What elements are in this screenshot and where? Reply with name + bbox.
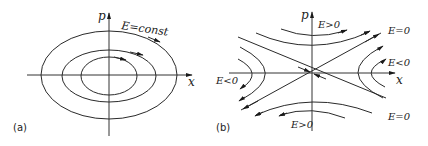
energy-negative-right-label: E<0 <box>387 57 411 68</box>
arrow-icon <box>361 31 370 35</box>
phase-portrait-figure: p x E=const (a) <box>0 0 428 146</box>
p-label: p <box>301 8 309 22</box>
energy-const-label: E=const <box>120 19 170 39</box>
panel-a-label: (a) <box>13 122 27 133</box>
arrow-icon <box>243 101 258 109</box>
panel-b-label: (b) <box>216 122 230 133</box>
trajectory-bottom-outer <box>256 102 372 115</box>
energy-zero-top-label: E=0 <box>387 25 411 36</box>
panel-a: p x E=const (a) <box>13 9 195 136</box>
energy-positive-bottom-label: E>0 <box>290 119 314 130</box>
arrow-icon <box>239 97 245 101</box>
arrow-icon <box>298 67 310 72</box>
panel-b: p x E>0 E=0 E<0 E<0 E=0 E>0 (b) <box>215 8 411 133</box>
energy-positive-top-label: E>0 <box>317 19 341 30</box>
x-label: x <box>396 73 403 87</box>
x-label: x <box>188 75 195 89</box>
separatrix-unstable <box>241 33 381 110</box>
arrow-icon <box>338 30 347 33</box>
p-label: p <box>98 9 106 23</box>
energy-zero-bottom-label: E=0 <box>387 111 411 122</box>
arrow-icon <box>314 74 326 79</box>
arrow-icon <box>365 34 379 42</box>
arrow-icon <box>377 46 383 50</box>
arrow-icon <box>255 112 263 116</box>
energy-negative-left-label: E<0 <box>215 75 239 86</box>
arrow-icon <box>114 57 126 60</box>
